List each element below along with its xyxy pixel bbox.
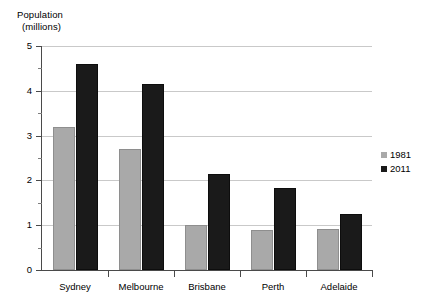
bar-adelaide-2011 [340, 214, 362, 270]
y-tick-0 [36, 270, 42, 271]
legend-label: 1981 [390, 150, 411, 160]
x-tick-label-adelaide: Adelaide [321, 281, 358, 292]
bar-perth-2011 [274, 188, 296, 270]
y-axis-title-line1: Population [17, 9, 63, 20]
y-tick-label: 3 [2, 131, 32, 141]
bar-melbourne-2011 [142, 84, 164, 270]
legend-item-2011: 2011 [381, 163, 411, 175]
legend-item-1981: 1981 [381, 149, 411, 161]
x-tick-label-sydney: Sydney [59, 281, 91, 292]
y-tick-label: 2 [2, 175, 32, 185]
x-tick [108, 271, 109, 277]
legend-label: 2011 [390, 164, 410, 174]
x-tick [174, 271, 175, 277]
legend: 19812011 [381, 149, 411, 177]
x-axis-line [41, 270, 373, 271]
bar-sydney-1981 [53, 127, 75, 270]
population-bar-chart: Population (millions) 012345 SydneyMelbo… [0, 0, 427, 305]
x-tick-label-brisbane: Brisbane [188, 281, 226, 292]
plot-area [42, 46, 372, 270]
legend-swatch-icon-2011 [381, 166, 387, 172]
gridline [42, 46, 372, 47]
x-tick [306, 271, 307, 277]
y-tick-label: 4 [2, 86, 32, 96]
y-tick-label: 1 [2, 220, 32, 230]
x-tick-label-perth: Perth [262, 281, 285, 292]
bar-melbourne-1981 [119, 149, 141, 270]
bar-sydney-2011 [76, 64, 98, 270]
y-axis-title-line2: (millions) [17, 21, 63, 33]
y-tick-label: 0 [2, 265, 32, 275]
legend-swatch-icon-1981 [381, 152, 387, 158]
bar-adelaide-1981 [317, 229, 339, 270]
y-tick-label: 5 [2, 41, 32, 51]
bar-perth-1981 [251, 230, 273, 270]
x-tick [240, 271, 241, 277]
x-tick-label-melbourne: Melbourne [119, 281, 164, 292]
y-axis-title: Population (millions) [17, 9, 63, 33]
x-tick [372, 271, 373, 277]
bar-brisbane-1981 [185, 225, 207, 270]
bar-brisbane-2011 [208, 174, 230, 270]
